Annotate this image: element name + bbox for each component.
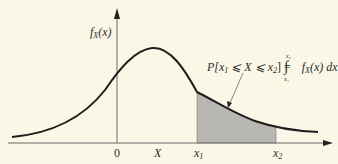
leader-arrow-icon bbox=[227, 101, 232, 108]
x-axis-arrow-icon bbox=[323, 140, 333, 146]
formula-integrand-rest: (x) dx bbox=[310, 60, 338, 74]
x1-sub: 1 bbox=[199, 152, 203, 161]
integral-sign-icon: ∫ bbox=[284, 59, 288, 74]
y-axis-label: fX(x) bbox=[90, 26, 112, 40]
y-axis-arrow-icon bbox=[114, 8, 120, 19]
tick-label-origin: 0 bbox=[114, 147, 120, 159]
tick-label-mean: X bbox=[154, 147, 161, 159]
y-label-arg: (x) bbox=[98, 25, 111, 39]
integral-lower-limit: x₁ bbox=[284, 76, 289, 82]
tick-label-x2: x2 bbox=[273, 147, 282, 161]
formula-lhs: P[x bbox=[207, 60, 224, 74]
annotation-leader-line bbox=[230, 73, 243, 103]
formula-mid: ⩽ X ⩽ x bbox=[228, 60, 273, 74]
tick-label-x1: x1 bbox=[194, 147, 203, 161]
shaded-probability-area bbox=[197, 92, 276, 143]
probability-formula: P[x1 ⩽ X ⩽ x2] = fX(x) dx bbox=[207, 61, 338, 75]
integral-upper-limit: x₂ bbox=[286, 53, 291, 59]
x2-sub: 2 bbox=[278, 152, 282, 161]
